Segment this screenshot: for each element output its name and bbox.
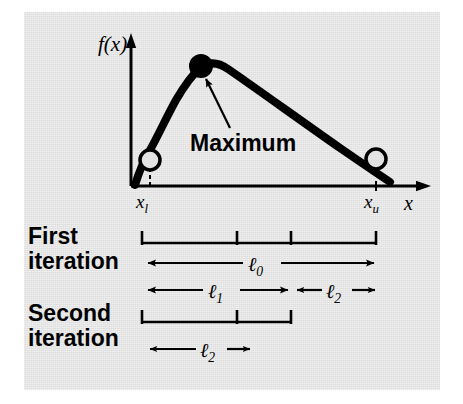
interval-l0-subscript: 0 bbox=[256, 264, 263, 279]
interval-l2b-subscript: 2 bbox=[208, 350, 215, 365]
interval-l2-label-first-iteration: ℓ2 bbox=[326, 281, 341, 306]
first-iteration-label-line1: First bbox=[28, 225, 78, 248]
x-upper-open-circle-marker bbox=[366, 149, 386, 169]
maximum-annotation-label: Maximum bbox=[190, 132, 296, 155]
first-iteration-label-line2: iteration bbox=[28, 250, 119, 273]
interval-l1-label: ℓ1 bbox=[208, 281, 223, 306]
function-curve-group bbox=[135, 63, 390, 185]
maximum-filled-circle-marker bbox=[190, 55, 212, 77]
x-upper-bound-label: xu bbox=[364, 192, 379, 216]
second-iteration-label-line2: iteration bbox=[28, 327, 119, 350]
second-iteration-label-line1: Second bbox=[28, 302, 111, 325]
x-lower-bound-subscript: l bbox=[144, 201, 148, 216]
maximum-annotation-arrow bbox=[206, 79, 230, 128]
y-axis-label: f(x) bbox=[98, 34, 127, 55]
first-iteration-interval-bar bbox=[142, 231, 376, 245]
x-lower-open-circle-marker bbox=[140, 150, 160, 170]
interval-l1-subscript: 1 bbox=[216, 291, 223, 306]
figure-root: f(x) xl xu x Maximum First iteration Sec… bbox=[0, 0, 463, 404]
interval-l2-label-second-iteration: ℓ2 bbox=[200, 340, 215, 365]
x-lower-bound-label: xl bbox=[136, 192, 148, 216]
interval-l0-label: ℓ0 bbox=[248, 254, 263, 279]
interval-l2-subscript: 2 bbox=[334, 291, 341, 306]
function-curve bbox=[135, 63, 390, 185]
second-iteration-interval-bar bbox=[142, 310, 291, 324]
x-axis-label: x bbox=[404, 193, 413, 213]
x-axis-arrowhead bbox=[416, 181, 431, 191]
y-axis-arrowhead bbox=[126, 33, 136, 48]
x-upper-bound-subscript: u bbox=[372, 201, 378, 216]
